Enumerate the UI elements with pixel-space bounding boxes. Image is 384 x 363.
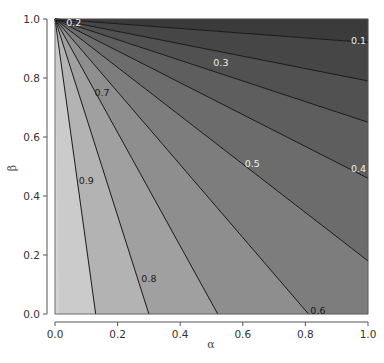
contour-chart: 0.90.80.70.60.50.40.30.20.1 0.00.20.40.6… (0, 0, 384, 363)
x-tick-label: 0.4 (172, 328, 189, 340)
contour-label: 0.1 (351, 35, 366, 46)
x-tick-label: 0.8 (297, 328, 314, 340)
y-axis-label: β (6, 165, 19, 171)
x-tick-label: 0.6 (234, 328, 251, 340)
contour-label: 0.8 (141, 273, 156, 284)
y-tick-label: 1.0 (23, 13, 40, 25)
y-tick-label: 0.0 (23, 308, 40, 320)
x-tick-label: 0.2 (109, 328, 126, 340)
x-axis-label: α (207, 338, 215, 351)
contour-label: 0.6 (310, 305, 325, 316)
contour-label: 0.3 (213, 57, 228, 68)
x-tick-label: 0.0 (47, 328, 64, 340)
contour-label: 0.5 (245, 158, 260, 169)
y-axis: 0.00.20.40.60.81.0 (23, 13, 47, 320)
contour-label: 0.9 (79, 175, 94, 186)
y-tick-label: 0.8 (23, 72, 40, 84)
contour-label: 0.7 (94, 87, 109, 98)
figure-caption-fragment (4, 354, 384, 363)
contour-label: 0.4 (351, 163, 366, 174)
y-tick-label: 0.2 (23, 249, 40, 261)
y-tick-label: 0.4 (23, 190, 40, 202)
x-tick-label: 1.0 (360, 328, 377, 340)
y-tick-label: 0.6 (23, 131, 40, 143)
contour-label: 0.2 (66, 17, 81, 28)
